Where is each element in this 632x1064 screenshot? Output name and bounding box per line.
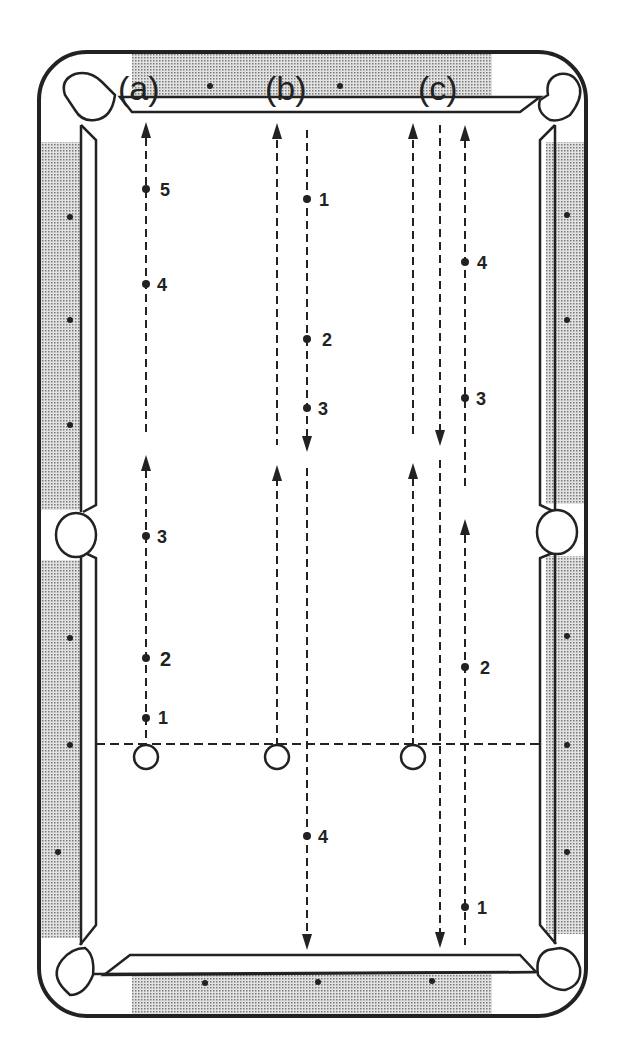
svg-text:2: 2 <box>160 648 171 670</box>
svg-text:3: 3 <box>476 389 486 409</box>
svg-text:1: 1 <box>158 708 168 728</box>
column-header-a: (a) <box>118 69 160 107</box>
svg-text:4: 4 <box>318 827 328 847</box>
cue-ball-a <box>134 745 158 769</box>
svg-text:2: 2 <box>480 658 490 678</box>
table-outer-frame <box>39 52 586 1016</box>
pocket-mid-left <box>56 513 96 557</box>
svg-text:1: 1 <box>319 190 329 210</box>
svg-text:3: 3 <box>157 527 167 547</box>
cue-ball-c <box>401 745 425 769</box>
cue-ball-b <box>265 745 289 769</box>
billiards-diagram: (a) (b) (c) <box>0 0 632 1064</box>
column-header-c: (c) <box>418 69 458 107</box>
column-header-b: (b) <box>265 69 307 107</box>
svg-text:3: 3 <box>318 399 328 419</box>
svg-text:1: 1 <box>477 898 487 918</box>
svg-text:4: 4 <box>157 275 167 295</box>
pocket-mid-right <box>537 510 577 554</box>
svg-text:4: 4 <box>477 253 487 273</box>
svg-text:5: 5 <box>160 180 170 200</box>
svg-text:2: 2 <box>322 330 332 350</box>
